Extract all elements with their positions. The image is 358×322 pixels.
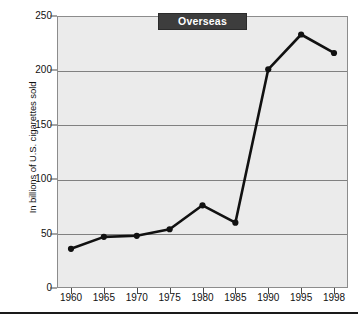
y-tick-label-50: 50 bbox=[22, 229, 52, 239]
data-point-1975 bbox=[167, 226, 173, 232]
x-tick-mark-1965 bbox=[104, 288, 105, 294]
data-point-1998 bbox=[331, 50, 337, 56]
chart-title-label: Overseas bbox=[178, 16, 227, 27]
y-tick-mark-100 bbox=[50, 179, 57, 180]
x-tick-mark-1970 bbox=[137, 288, 138, 294]
y-tick-label-0: 0 bbox=[22, 283, 52, 293]
bottom-rule-divider bbox=[0, 312, 358, 314]
y-tick-mark-150 bbox=[50, 124, 57, 125]
y-tick-label-250: 250 bbox=[22, 11, 52, 21]
y-tick-mark-200 bbox=[50, 70, 57, 71]
y-tick-label-100: 100 bbox=[22, 174, 52, 184]
x-tick-mark-1998 bbox=[334, 288, 335, 294]
y-tick-label-150: 150 bbox=[22, 120, 52, 130]
series-line bbox=[71, 34, 334, 248]
x-tick-mark-1960 bbox=[71, 288, 72, 294]
data-series-overseas bbox=[57, 16, 348, 288]
chart-figure: In billions of U.S. cigarettes sold 0501… bbox=[0, 0, 358, 322]
x-tick-label-1998: 1998 bbox=[314, 293, 354, 303]
data-point-1965 bbox=[101, 234, 107, 240]
chart-title-plate: Overseas bbox=[158, 13, 247, 30]
data-point-1995 bbox=[298, 31, 304, 37]
data-point-1960 bbox=[68, 246, 74, 252]
data-point-1990 bbox=[265, 66, 271, 72]
y-tick-mark-0 bbox=[50, 288, 57, 289]
y-tick-mark-250 bbox=[50, 16, 57, 17]
x-tick-mark-1995 bbox=[301, 288, 302, 294]
x-tick-mark-1985 bbox=[235, 288, 236, 294]
x-tick-mark-1990 bbox=[268, 288, 269, 294]
data-point-1985 bbox=[232, 220, 238, 226]
data-point-1980 bbox=[199, 202, 205, 208]
y-tick-label-200: 200 bbox=[22, 65, 52, 75]
y-tick-mark-50 bbox=[50, 233, 57, 234]
x-tick-mark-1975 bbox=[170, 288, 171, 294]
data-point-1970 bbox=[134, 233, 140, 239]
x-tick-mark-1980 bbox=[203, 288, 204, 294]
